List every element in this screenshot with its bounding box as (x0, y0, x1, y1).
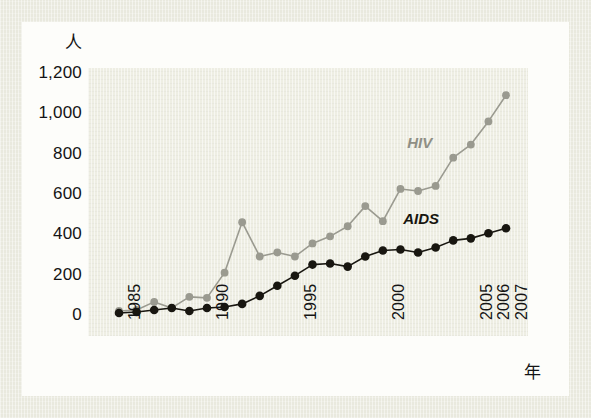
y-axis-unit-label: 人 (22, 28, 82, 53)
data-point (361, 202, 369, 210)
data-point (467, 234, 476, 243)
photo-frame-border: 人 1,2001,0008006004002000 19851990199520… (0, 0, 591, 418)
data-point (414, 248, 423, 257)
data-point (449, 154, 457, 162)
data-point (484, 229, 493, 238)
series-hiv (115, 91, 510, 315)
data-point (467, 141, 475, 149)
x-axis-tick-label: 2005 (478, 284, 496, 320)
data-point (502, 91, 510, 99)
data-point (203, 304, 212, 313)
x-axis: 1985199019952000200520062007年 (22, 314, 569, 396)
data-point (326, 232, 334, 240)
x-axis-tick-label: 1995 (302, 284, 320, 320)
data-point (379, 246, 388, 255)
data-point (397, 185, 405, 193)
data-point (432, 182, 440, 190)
series-line (119, 95, 506, 311)
y-axis-tick-label: 1,200 (38, 63, 82, 83)
data-point (273, 249, 281, 257)
data-point (449, 236, 458, 245)
data-point (396, 245, 405, 254)
data-point (414, 187, 422, 195)
y-axis-tick-label: 600 (53, 184, 82, 204)
data-point (256, 253, 264, 261)
chart-page: 人 1,2001,0008006004002000 19851990199520… (22, 22, 569, 396)
x-axis-tick-label: 2000 (390, 284, 408, 320)
data-point (203, 294, 211, 302)
data-point (309, 240, 317, 248)
y-axis-tick-label: 1,000 (38, 103, 82, 123)
data-point (291, 271, 300, 280)
x-axis-unit-label: 年 (524, 358, 541, 383)
data-point (150, 306, 159, 315)
data-point (343, 262, 352, 271)
data-point (255, 292, 264, 301)
data-point (238, 218, 246, 226)
y-axis-tick-label: 400 (53, 224, 82, 244)
data-point (167, 304, 176, 313)
y-axis-tick-label: 200 (53, 265, 82, 285)
data-point (221, 269, 229, 277)
data-point (431, 243, 440, 252)
data-point (326, 259, 335, 268)
x-axis-tick-label: 2007 (513, 284, 531, 320)
x-axis-tick-label: 2006 (495, 284, 513, 320)
data-point (361, 252, 370, 261)
y-axis-tick-label: 800 (53, 144, 82, 164)
series-label-hiv: HIV (407, 134, 432, 151)
data-point (379, 217, 387, 225)
data-point (291, 253, 299, 261)
data-point (485, 118, 493, 126)
data-point (185, 293, 193, 301)
data-point (308, 260, 317, 269)
data-point (344, 222, 352, 230)
series-label-aids: AIDS (403, 210, 439, 227)
x-axis-tick-label: 1990 (214, 284, 232, 320)
x-axis-tick-label: 1985 (126, 284, 144, 320)
data-point (502, 224, 511, 233)
data-point (238, 300, 247, 309)
data-point (150, 298, 158, 306)
data-point (273, 281, 282, 290)
